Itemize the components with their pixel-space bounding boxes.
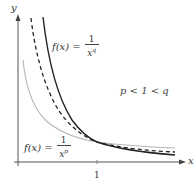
label-f-p-lhs: f(x) = <box>24 142 53 153</box>
x-axis-label: x <box>188 155 194 166</box>
label-f-q-exp: q <box>92 46 96 53</box>
x-axis-arrow-icon <box>179 160 186 165</box>
y-axis-label: y <box>11 2 17 13</box>
label-f-q-lhs: f(x) = <box>52 41 81 52</box>
x-tick-label-1: 1 <box>94 170 100 180</box>
label-f-p-num: 1 <box>61 135 67 145</box>
label-f-p-exp: p <box>64 147 68 154</box>
y-axis-arrow-icon <box>16 14 21 21</box>
annotation-p-lt-1-lt-q: p < 1 < q <box>120 85 169 96</box>
label-f-q-num: 1 <box>89 34 95 44</box>
label-f-q: f(x) = 1 xq <box>52 34 99 58</box>
label-f-p: f(x) = 1 xp <box>24 135 71 159</box>
